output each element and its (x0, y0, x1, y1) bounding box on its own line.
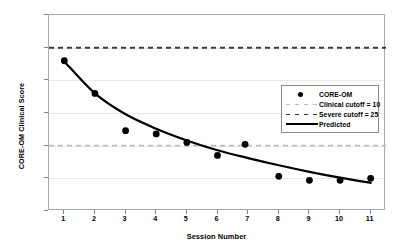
x-axis-tick-label: 1 (53, 214, 73, 223)
x-axis-tick-mark (186, 210, 187, 214)
legend-item: Clinical cutoff = 10 (285, 99, 374, 109)
x-axis-tick-label: 2 (84, 214, 104, 223)
x-axis-tick-mark (94, 210, 95, 214)
legend-swatch (298, 92, 303, 97)
legend-key-dash-dark (285, 109, 319, 119)
x-axis-tick-mark (125, 210, 126, 214)
y-axis-tick-mark (44, 210, 48, 211)
legend-label: Clinical cutoff = 10 (319, 101, 380, 108)
x-axis-tick-label: 6 (207, 214, 227, 223)
x-axis-tick-mark (339, 210, 340, 214)
x-axis-tick-mark (217, 210, 218, 214)
x-axis-tick-label: 8 (268, 214, 288, 223)
data-point (183, 139, 190, 146)
data-point (242, 141, 249, 148)
data-point (92, 90, 99, 97)
data-point (337, 177, 344, 184)
data-point (306, 177, 313, 184)
data-point (61, 57, 68, 64)
x-axis-tick-label: 9 (298, 214, 318, 223)
legend-item: CORE-OM (285, 89, 374, 99)
x-axis-tick-mark (247, 210, 248, 214)
x-axis-tick-label: 5 (176, 214, 196, 223)
x-axis-tick-mark (308, 210, 309, 214)
x-axis-tick-label: 11 (360, 214, 380, 223)
plot-area: CORE-OMClinical cutoff = 10Severe cutoff… (48, 14, 385, 210)
legend-label: Predicted (319, 121, 350, 128)
x-axis-title: Session Number (48, 232, 385, 241)
x-axis-tick-label: 10 (329, 214, 349, 223)
chart-figure: CORE-OM Clinical Score 0.05.010.015.020.… (0, 0, 398, 252)
legend: CORE-OMClinical cutoff = 10Severe cutoff… (281, 85, 379, 133)
y-axis-title: CORE-OM Clinical Score (14, 0, 28, 252)
legend-item: Severe cutoff = 25 (285, 109, 374, 119)
legend-key-solid (285, 119, 319, 129)
legend-swatch (286, 104, 318, 106)
legend-key-dot (285, 89, 319, 99)
data-point (214, 152, 221, 159)
data-point (122, 127, 129, 134)
x-axis-tick-label: 4 (145, 214, 165, 223)
x-axis-tick-mark (370, 210, 371, 214)
legend-swatch (286, 123, 318, 125)
x-axis-tick-label: 7 (237, 214, 257, 223)
x-axis-tick-mark (63, 210, 64, 214)
legend-swatch (286, 114, 318, 116)
x-axis-tick-mark (155, 210, 156, 214)
legend-item: Predicted (285, 119, 374, 129)
legend-label: Severe cutoff = 25 (319, 111, 378, 118)
data-point (275, 173, 282, 180)
x-axis-tick-mark (278, 210, 279, 214)
data-point (367, 175, 374, 182)
legend-label: CORE-OM (319, 91, 352, 98)
x-axis-tick-label: 3 (115, 214, 135, 223)
legend-key-dash-light (285, 99, 319, 109)
data-point (153, 131, 160, 138)
